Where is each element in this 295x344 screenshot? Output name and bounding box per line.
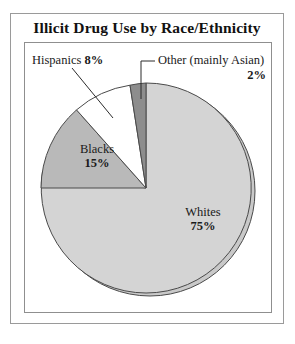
label-blacks-name: Blacks <box>62 142 132 156</box>
label-blacks: Blacks 15% <box>62 142 132 170</box>
label-whites-pct: 75% <box>166 219 240 233</box>
chart-title: Illicit Drug Use by Race/Ethnicity <box>10 19 284 37</box>
label-other-pct: 2% <box>158 68 266 82</box>
label-whites: Whites 75% <box>166 205 240 233</box>
label-other-name: Other (mainly Asian) <box>158 53 264 67</box>
label-hispanics-pct: 8% <box>84 53 103 67</box>
label-whites-name: Whites <box>166 205 240 219</box>
label-other: Other (mainly Asian) 2% <box>158 53 270 82</box>
plot-area-frame <box>24 42 272 313</box>
label-hispanics: Hispanics 8% <box>32 53 103 67</box>
figure-root: Illicit Drug Use by Race/Ethnicity <box>0 0 295 344</box>
label-blacks-pct: 15% <box>62 156 132 170</box>
label-hispanics-name: Hispanics <box>32 53 81 67</box>
